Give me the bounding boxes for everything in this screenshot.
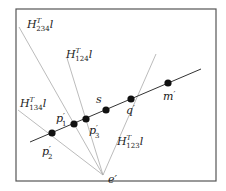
point-s xyxy=(102,106,109,113)
point-p3 xyxy=(82,115,89,122)
point-q xyxy=(127,95,134,102)
label-h123: HT123l xyxy=(116,134,144,150)
label-point-p3: p′3 xyxy=(89,123,99,140)
label-h134: HT134l xyxy=(19,96,47,112)
labels: HT234lHT124lHT134lHT123lp′2p′1p′3sq′m′ xyxy=(19,17,175,161)
label-h234: HT234l xyxy=(26,17,54,33)
point-m xyxy=(164,79,171,86)
point-p2 xyxy=(48,129,55,136)
epipolar-diagram: HT234lHT124lHT134lHT123lp′2p′1p′3sq′m′ e… xyxy=(0,0,226,191)
label-h124: HT124l xyxy=(65,47,93,63)
epipole-label: e′ xyxy=(108,173,118,186)
label-point-s: s xyxy=(96,93,102,106)
label-point-q: q′ xyxy=(126,103,135,117)
hyperplane-lines xyxy=(18,27,156,175)
point-p1 xyxy=(70,120,77,127)
line-l xyxy=(30,69,201,142)
label-point-m: m′ xyxy=(163,89,175,103)
label-point-p2: p′2 xyxy=(42,144,52,161)
label-point-p1: p′1 xyxy=(56,111,66,128)
